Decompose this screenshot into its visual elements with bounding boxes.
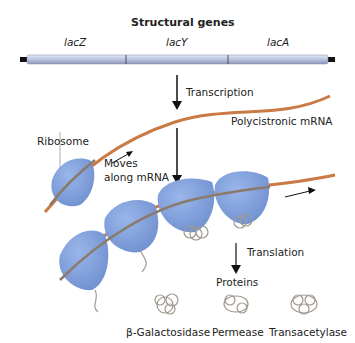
transcription-arrow xyxy=(172,75,182,110)
moves-label-2: along mRNA xyxy=(104,171,169,183)
gene-laca: lacA xyxy=(267,36,289,48)
protein-transacetylase-icon xyxy=(291,295,317,314)
moves-label-1: Moves xyxy=(104,157,138,169)
mrna-label: Polycistronic mRNA xyxy=(231,115,333,127)
translation-label: Translation xyxy=(247,246,304,258)
gene-lacz: lacZ xyxy=(64,36,86,48)
translation-down-arrow xyxy=(172,128,182,184)
gene-bar xyxy=(20,55,335,64)
title: Structural genes xyxy=(131,16,235,29)
transcription-label: Transcription xyxy=(186,86,254,98)
polysome xyxy=(59,171,270,312)
protein-permease-icon xyxy=(224,295,248,313)
protein-label-permease: Permease xyxy=(212,326,264,338)
gene-lacy: lacY xyxy=(166,36,188,48)
direction-arrow xyxy=(285,187,316,197)
ribosome-label: Ribosome xyxy=(37,135,89,147)
protein-beta-galactosidase-icon xyxy=(155,294,178,314)
proteins-label: Proteins xyxy=(216,276,258,288)
lac-operon-diagram xyxy=(0,0,355,343)
translation-arrow xyxy=(231,243,241,274)
protein-label-transacetylase: Transacetylase xyxy=(269,326,347,338)
protein-label-beta-galactosidase: β-Galactosidase xyxy=(126,326,210,338)
